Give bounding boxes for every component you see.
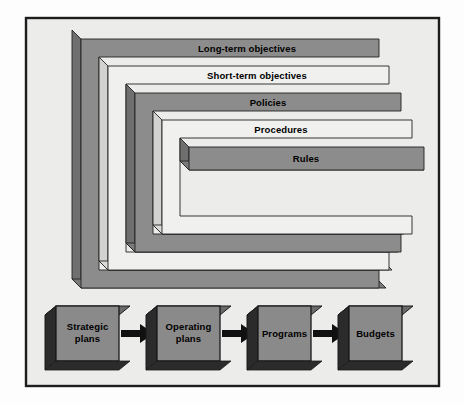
layer-side-face [72, 30, 81, 288]
flow-node-label-line1: Budgets [356, 328, 395, 339]
layer-label-short-term-objectives: Short-term objectives [207, 70, 307, 81]
figure-canvas: Long-term objectives Short-term objectiv… [0, 0, 464, 404]
layer-label-policies: Policies [250, 97, 287, 108]
flow-node-label-line1: Strategic [67, 321, 109, 332]
cube-side-face [45, 306, 56, 370]
cube-bottom-shadow [338, 361, 413, 370]
flow-node-label-line2: plans [75, 333, 100, 344]
cube-bottom-shadow [247, 361, 322, 370]
cube-side-face [247, 306, 258, 370]
cube-side-face [146, 306, 157, 370]
flow-node-programs[interactable]: Programs [247, 306, 322, 370]
flow-node-budgets[interactable]: Budgets [338, 306, 413, 370]
flow-node-operating-plans[interactable]: Operating plans [146, 306, 231, 370]
hierarchy-diagram: Long-term objectives Short-term objectiv… [0, 0, 464, 404]
layer-side-face [126, 84, 135, 252]
layer-label-procedures: Procedures [254, 124, 307, 135]
layer-side-face [99, 57, 108, 270]
flow-node-strategic-plans[interactable]: Strategic plans [45, 306, 130, 370]
layer-label-long-term-objectives: Long-term objectives [198, 43, 296, 54]
layer-label-rules: Rules [293, 153, 319, 164]
layer-side-face [153, 111, 162, 234]
cube-bottom-shadow [146, 361, 231, 370]
flow-node-label-line1: Programs [262, 328, 307, 339]
flow-node-label-line2: plans [176, 333, 201, 344]
cube-bottom-shadow [45, 361, 130, 370]
cube-side-face [338, 306, 349, 370]
flow-node-label-line1: Operating [166, 321, 212, 332]
